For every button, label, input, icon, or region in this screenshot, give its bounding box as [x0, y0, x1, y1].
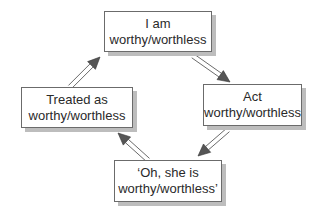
- node-label-line1: Treated as: [46, 92, 108, 108]
- node-i-am-worthy: I am worthy/worthless: [104, 11, 212, 52]
- arrow-shaft-line: [128, 139, 149, 158]
- arrow-left-to-top: [68, 57, 100, 89]
- arrow-right-to-bottom: [198, 128, 229, 156]
- arrow-head: [217, 71, 230, 82]
- arrow-head: [88, 57, 100, 69]
- node-treated-as-worthy: Treated as worthy/worthless: [21, 87, 133, 128]
- node-label-line1: Act: [243, 89, 262, 105]
- node-act-worthy: Act worthy/worthless: [203, 84, 302, 126]
- node-label-line1: I am: [145, 16, 170, 32]
- arrow-shaft-line: [72, 67, 94, 89]
- arrow-bottom-to-left: [118, 133, 149, 162]
- arrow-shaft-line: [194, 54, 221, 73]
- node-oh-she-is-worthy: ‘Oh, she is worthy/worthless’: [114, 160, 222, 202]
- arrow-head: [198, 144, 211, 156]
- arrow-shaft-line: [125, 143, 146, 162]
- arrow-shaft-line: [192, 58, 219, 77]
- node-label-line2: worthy/worthless: [204, 105, 301, 121]
- arrow-shaft-line: [68, 64, 90, 86]
- node-label-line1: ‘Oh, she is: [137, 165, 198, 181]
- arrow-top-to-right: [192, 54, 230, 82]
- node-label-line2: worthy/worthless: [29, 108, 126, 124]
- arrow-head: [118, 133, 131, 145]
- node-label-line2: worthy/worthless’: [118, 181, 218, 197]
- node-label-line2: worthy/worthless: [110, 32, 207, 48]
